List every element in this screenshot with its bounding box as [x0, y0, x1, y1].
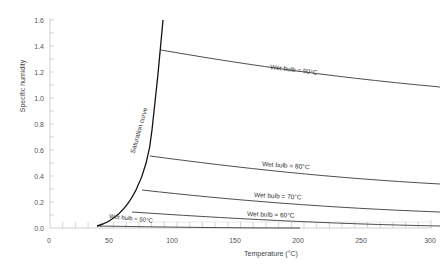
- axes: 1.6 1.4 1.2 1.0 0.8 0.6 0.4 0.2 0.0 0 50…: [19, 17, 436, 259]
- wet-bulb-80-curve: [150, 156, 440, 184]
- wet-bulb-curves: [97, 50, 440, 228]
- x-axis-title: Temperature (°C): [244, 250, 298, 258]
- wet-bulb-90-label: Wet bulb = 90°C: [270, 63, 318, 76]
- x-tick-label: 250: [355, 237, 367, 244]
- y-tick-label: 0.8: [34, 121, 44, 128]
- x-tick-label: 0: [47, 237, 51, 244]
- x-tick-label: 200: [292, 237, 304, 244]
- y-tick-label: 0.2: [34, 199, 44, 206]
- curve-labels: Saturation curve Wet bulb = 90°C Wet bul…: [109, 63, 318, 224]
- x-tick-label: 100: [166, 237, 178, 244]
- x-tick-label: 150: [229, 237, 241, 244]
- y-tick-label: 0.4: [34, 173, 44, 180]
- x-tick-labels: 0 50 100 150 200 250 300: [47, 237, 436, 244]
- y-tick-label: 1.6: [34, 17, 44, 24]
- x-tick-label: 300: [424, 237, 436, 244]
- x-tick-label: 50: [105, 237, 113, 244]
- y-tick-label: 1.0: [34, 95, 44, 102]
- saturation-curve: [97, 20, 163, 226]
- saturation-curve-label: Saturation curve: [129, 106, 149, 154]
- wet-bulb-60-label: Wet bulb = 60°C: [247, 210, 295, 219]
- y-tick-label: 0.0: [34, 225, 44, 232]
- y-tick-label: 0.6: [34, 147, 44, 154]
- y-axis-ticks: [50, 20, 54, 215]
- y-tick-label: 1.2: [34, 69, 44, 76]
- y-axis-title: Specific humidity: [19, 59, 27, 112]
- y-tick-label: 1.4: [34, 43, 44, 50]
- y-tick-labels: 1.6 1.4 1.2 1.0 0.8 0.6 0.4 0.2 0.0: [34, 17, 44, 232]
- wet-bulb-70-label: Wet bulb = 70°C: [254, 191, 302, 200]
- wet-bulb-80-label: Wet bulb = 80°C: [262, 160, 310, 170]
- psychrometric-chart: 1.6 1.4 1.2 1.0 0.8 0.6 0.4 0.2 0.0 0 50…: [0, 0, 445, 274]
